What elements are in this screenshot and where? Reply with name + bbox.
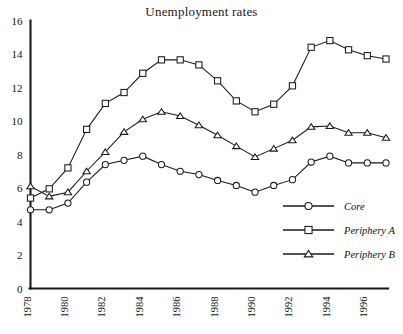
data-point-marker-circle <box>345 160 351 166</box>
data-point-marker-triangle <box>27 183 34 189</box>
data-point-marker-circle <box>327 153 333 159</box>
data-point-marker-circle <box>158 161 164 167</box>
y-tick-label: 14 <box>12 48 24 60</box>
x-tick-label: 1980 <box>59 297 70 318</box>
data-point-marker-circle <box>308 159 314 165</box>
y-tick-label: 2 <box>17 249 23 261</box>
data-point-marker-circle <box>177 168 183 174</box>
data-point-marker-circle <box>289 177 295 183</box>
x-tick-label: 1990 <box>246 297 257 318</box>
data-point-marker-square <box>289 83 295 89</box>
data-point-marker-circle <box>140 153 146 159</box>
legend-entry-periphery-a[interactable]: Periphery A <box>283 225 395 236</box>
data-point-marker-square <box>84 126 90 132</box>
data-point-marker-circle <box>196 172 202 178</box>
y-tick-label: 12 <box>12 82 23 94</box>
data-point-marker-circle <box>383 160 389 166</box>
x-tick-label: 1986 <box>171 297 182 318</box>
data-point-marker-triangle <box>158 109 165 115</box>
legend-label: Periphery A <box>343 225 395 236</box>
data-point-marker-square <box>177 57 183 63</box>
data-point-marker-circle <box>233 182 239 188</box>
data-point-marker-square <box>65 165 71 171</box>
data-point-marker-circle <box>215 177 221 183</box>
data-point-marker-circle <box>27 207 33 213</box>
data-point-marker-circle <box>305 202 312 209</box>
data-point-marker-square <box>364 53 370 59</box>
data-point-marker-square <box>308 44 314 50</box>
series-core <box>27 153 389 213</box>
x-tick-label: 1992 <box>283 297 294 318</box>
data-point-marker-circle <box>65 200 71 206</box>
chart-container: Unemployment rates 0246810121416 1978198… <box>0 0 403 334</box>
x-tick-label: 1996 <box>358 297 369 318</box>
data-point-marker-triangle <box>270 146 277 152</box>
data-point-marker-square <box>327 38 333 44</box>
data-point-marker-circle <box>84 179 90 185</box>
legend-entry-core[interactable]: Core <box>283 201 365 212</box>
data-point-marker-square <box>27 195 33 201</box>
data-point-marker-circle <box>121 157 127 163</box>
chart-legend: CorePeriphery APeriphery B <box>283 201 396 260</box>
data-point-marker-circle <box>252 189 258 195</box>
x-tick-label: 1994 <box>321 296 332 318</box>
data-point-marker-triangle <box>251 154 258 160</box>
data-point-marker-circle <box>46 207 52 213</box>
data-point-marker-square <box>383 56 389 62</box>
data-point-marker-triangle <box>139 116 146 122</box>
data-point-marker-square <box>271 101 277 107</box>
data-point-marker-triangle <box>195 122 202 128</box>
y-tick-label: 0 <box>17 283 23 295</box>
data-point-marker-square <box>46 186 52 192</box>
data-point-marker-square <box>252 109 258 115</box>
y-tick-label: 8 <box>17 149 23 161</box>
y-tick-label: 16 <box>12 15 24 27</box>
data-point-marker-square <box>121 89 127 95</box>
data-point-marker-circle <box>102 161 108 167</box>
data-point-marker-square <box>233 98 239 104</box>
data-series-group <box>27 38 390 213</box>
data-point-marker-square <box>102 100 108 106</box>
series-periphery-b <box>27 109 390 199</box>
x-tick-label: 1982 <box>96 297 107 318</box>
y-axis-tick-labels: 0246810121416 <box>12 15 24 295</box>
data-point-marker-square <box>196 62 202 68</box>
line-chart-plot: 0246810121416 19781980198219841986198819… <box>0 0 403 334</box>
data-point-marker-triangle <box>233 143 240 149</box>
x-axis-tick-labels: 1978198019821984198619881990199219941996 <box>22 296 370 318</box>
data-point-marker-circle <box>364 160 370 166</box>
data-point-marker-square <box>158 57 164 63</box>
y-tick-label: 4 <box>17 216 23 228</box>
data-point-marker-square <box>305 226 312 233</box>
y-tick-label: 10 <box>12 115 24 127</box>
data-point-marker-square <box>345 47 351 53</box>
data-point-marker-circle <box>271 182 277 188</box>
data-point-marker-square <box>215 78 221 84</box>
x-tick-label: 1978 <box>22 297 33 318</box>
data-point-marker-triangle <box>214 132 221 138</box>
legend-label: Core <box>344 201 365 212</box>
x-tick-label: 1988 <box>209 297 220 318</box>
x-tick-label: 1984 <box>134 296 145 318</box>
legend-label: Periphery B <box>343 249 396 260</box>
data-point-marker-square <box>140 70 146 76</box>
legend-entry-periphery-b[interactable]: Periphery B <box>283 249 396 260</box>
y-tick-label: 6 <box>17 182 23 194</box>
